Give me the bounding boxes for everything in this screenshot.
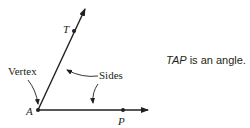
point-p [121,108,125,112]
point-t [72,29,76,33]
sides-callout-arrow-lower [93,84,98,103]
label-t: T [63,23,70,35]
caption-text: is an angle. [187,54,246,66]
label-p: P [117,115,125,127]
vertex-point-a [36,108,40,112]
label-vertex: Vertex [8,65,37,77]
vertex-callout-arrow [28,80,38,104]
sides-callout-arrow-upper [67,70,98,76]
angle-caption: TAP is an angle. [166,54,246,66]
ray-at [38,9,85,110]
label-a: A [25,105,33,117]
label-sides: Sides [99,69,123,81]
caption-angle-name: TAP [166,54,187,66]
